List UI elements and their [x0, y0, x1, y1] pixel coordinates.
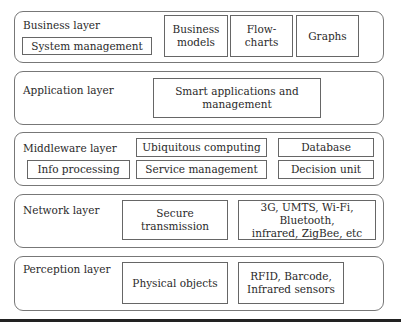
ubiquitous-computing-box: Ubiquitous computing [136, 138, 267, 157]
info-processing-box: Info processing [27, 160, 130, 179]
business-layer-label: Business layer [23, 19, 100, 31]
perception-layer-label: Perception layer [23, 263, 110, 275]
wireless-protocols-box: 3G, UMTS, Wi-Fi, Bluetooth, infrared, Zi… [238, 200, 376, 240]
smart-applications-box: Smart applications and management [153, 78, 321, 118]
secure-transmission-box: Secure transmission [122, 200, 228, 240]
bottom-rule [0, 319, 401, 322]
flowcharts-box: Flow- charts [230, 15, 293, 57]
network-layer-label: Network layer [23, 204, 99, 216]
database-box: Database [278, 138, 374, 157]
service-management-box: Service management [136, 160, 267, 179]
rfid-barcode-box: RFID, Barcode, Infrared sensors [238, 262, 344, 304]
application-layer-label: Application layer [23, 84, 114, 96]
graphs-box: Graphs [296, 15, 359, 57]
decision-unit-box: Decision unit [278, 160, 374, 179]
physical-objects-box: Physical objects [122, 262, 228, 304]
middleware-layer-label: Middleware layer [23, 142, 117, 154]
system-management-box: System management [22, 37, 152, 55]
business-models-box: Business models [164, 15, 228, 57]
